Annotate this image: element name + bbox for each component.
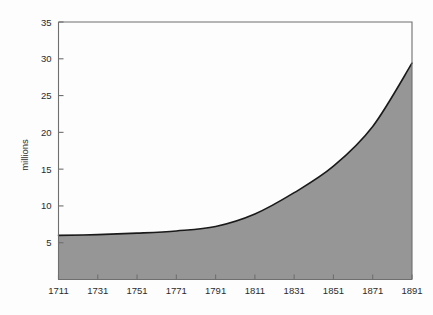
x-tick-label: 1731 <box>87 285 108 296</box>
y-axis-title: millions <box>19 139 30 171</box>
y-tick-label: 20 <box>41 127 52 138</box>
y-tick-label: 5 <box>46 237 51 248</box>
y-tick-label: 30 <box>41 53 52 64</box>
x-tick-label: 1811 <box>245 285 265 296</box>
x-tick-label: 1791 <box>205 285 226 296</box>
y-tick-label: 10 <box>41 200 52 211</box>
x-tick-label: 1851 <box>323 285 344 296</box>
x-tick-label: 1751 <box>126 285 147 296</box>
x-tick-label: 1711 <box>48 285 68 296</box>
y-tick-label: 35 <box>41 17 52 28</box>
area-chart: 5101520253035 17111731175117711791181118… <box>0 0 433 315</box>
x-tick-label: 1871 <box>362 285 383 296</box>
x-tick-label: 1771 <box>166 285 187 296</box>
chart-page: 5101520253035 17111731175117711791181118… <box>0 0 433 315</box>
y-tick-label: 15 <box>41 164 52 175</box>
y-tick-label: 25 <box>41 90 52 101</box>
x-tick-label: 1891 <box>401 285 422 296</box>
x-tick-label: 1831 <box>284 285 305 296</box>
